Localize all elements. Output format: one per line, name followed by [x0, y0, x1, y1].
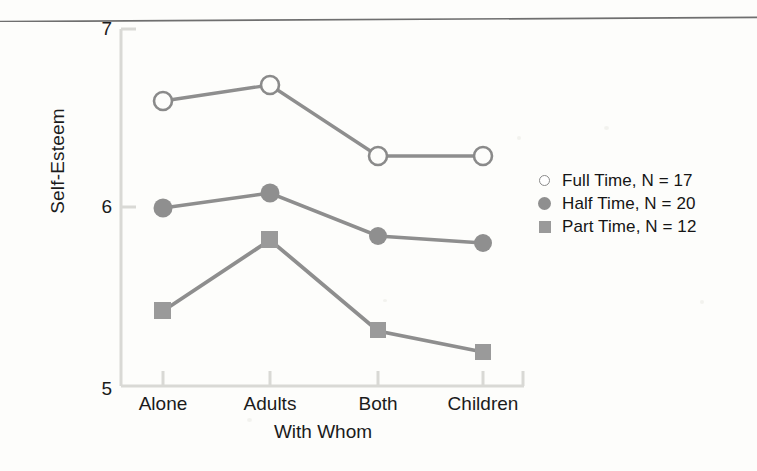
- series-line-full-time: [163, 85, 483, 156]
- legend-entry-half-time: Half Time, N = 20: [536, 193, 746, 215]
- scan-speckle: [247, 418, 252, 422]
- data-point-full-time-adults: [261, 76, 279, 94]
- filled-square-icon: [536, 217, 556, 237]
- data-point-part-time-children: [475, 344, 491, 360]
- series-line-part-time: [163, 240, 483, 352]
- data-point-full-time-both: [369, 147, 387, 165]
- y-tick-label-6: 6: [82, 196, 112, 218]
- x-tick-label-alone: Alone: [103, 393, 223, 415]
- x-tick-label-adults: Adults: [210, 393, 330, 415]
- chart-figure: Self-Esteem 7 6 5 Alone Adults Both Chil…: [0, 0, 757, 471]
- legend-entry-part-time: Part Time, N = 12: [536, 216, 746, 238]
- data-point-half-time-adults: [261, 184, 280, 203]
- legend-label-part-time: Part Time, N = 12: [562, 217, 696, 237]
- scan-speckle: [700, 300, 704, 304]
- scan-speckle: [604, 126, 609, 130]
- data-point-half-time-alone: [154, 199, 173, 218]
- open-circle-icon: [536, 171, 556, 191]
- data-point-part-time-alone: [154, 302, 171, 319]
- legend-label-half-time: Half Time, N = 20: [562, 194, 696, 214]
- data-point-part-time-both: [370, 322, 386, 338]
- series-line-half-time: [163, 193, 483, 243]
- data-point-half-time-both: [369, 227, 387, 245]
- data-point-half-time-children: [474, 234, 492, 252]
- x-axis-label: With Whom: [203, 421, 443, 443]
- scan-speckle: [517, 136, 521, 140]
- y-axis-label: Self-Esteem: [47, 81, 69, 241]
- y-tick-label-7: 7: [82, 18, 112, 40]
- filled-circle-icon: [536, 194, 556, 214]
- data-point-full-time-children: [474, 147, 492, 165]
- scan-speckle: [383, 299, 387, 302]
- x-tick-label-children: Children: [423, 393, 543, 415]
- data-point-part-time-adults: [261, 231, 278, 248]
- legend-label-full-time: Full Time, N = 17: [562, 171, 693, 191]
- legend: Full Time, N = 17 Half Time, N = 20 Part…: [536, 170, 746, 239]
- data-point-full-time-alone: [154, 92, 172, 110]
- legend-entry-full-time: Full Time, N = 17: [536, 170, 746, 192]
- x-tick-label-both: Both: [318, 393, 438, 415]
